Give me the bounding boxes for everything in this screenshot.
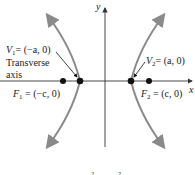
focus-f1-label: F1 = (−c, 0) [12, 88, 60, 101]
equation-superscript-1: 2 [91, 171, 94, 175]
right-branch [131, 16, 163, 81]
hyperbola-diagram: x y V1= (−a, 0) Transverse axis V2= (a, … [0, 0, 195, 175]
vertex-v1-label: V1= (−a, 0) [6, 44, 51, 57]
focus-f2-label: F2 = (c, 0) [140, 88, 182, 101]
vertex-v1-point [77, 78, 84, 85]
x-axis-label: x [188, 84, 194, 95]
equation-superscript-2: 2 [118, 171, 121, 175]
vertex-v2-label: V2= (a, 0) [146, 55, 185, 68]
focus-f1-point [60, 78, 66, 84]
transverse-axis-label-line1: Transverse [6, 57, 50, 68]
left-branch [48, 16, 80, 81]
y-axis-label: y [95, 1, 101, 12]
v1-pointer-arrow [56, 52, 77, 77]
transverse-axis-label-line2: axis [6, 69, 22, 80]
focus-f2-point [146, 78, 152, 84]
vertex-v2-point [128, 78, 135, 85]
